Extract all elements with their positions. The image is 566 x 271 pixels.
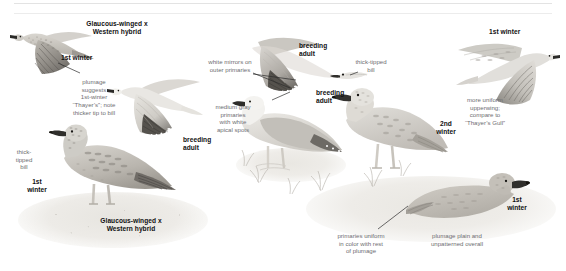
label-1st-winter-standing-left: 1st winter: [14, 178, 60, 194]
field-guide-plate: Glaucous-winged x Western hybrid 1st win…: [0, 0, 566, 271]
note-primaries-uniform: primaries uniform in color with rest of …: [322, 232, 400, 255]
label-1st-winter-flight-left: 1st winter: [61, 54, 121, 62]
label-breeding-adult-flight-left: breeding adult: [183, 136, 231, 152]
label-hybrid-heading-bottom: Glaucous-winged x Western hybrid: [78, 217, 184, 233]
label-1st-winter-flight-right: 1st winter: [489, 28, 549, 36]
label-breeding-adult-standing: breeding adult: [316, 89, 362, 105]
note-plumage-plain: plumage plain and unpatterned overall: [412, 232, 502, 247]
label-1st-winter-sitting-right: 1st winter: [495, 196, 539, 212]
note-plumage-suggests: plumage suggests 1st-winter “Thayer’s”; …: [58, 78, 130, 116]
label-hybrid-heading-top: Glaucous-winged x Western hybrid: [63, 20, 171, 36]
label-breeding-adult-flight-mid: breeding adult: [299, 42, 345, 58]
note-more-uniform-upperwing: more uniform upperwing; compare to “Thay…: [448, 96, 522, 127]
note-thick-tipped-bill-left: thick- tipped bill: [8, 148, 40, 171]
note-thick-tipped-bill-mid: thick-tipped bill: [345, 58, 397, 73]
note-medium-gray-primaries: medium gray primaries with white apical …: [199, 103, 267, 134]
note-white-mirrors: white mirrors on outer primaries: [194, 58, 266, 73]
